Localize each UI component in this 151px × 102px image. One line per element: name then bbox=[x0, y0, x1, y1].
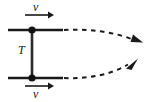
tension-label: T bbox=[18, 44, 25, 56]
top-pivot-point bbox=[28, 26, 35, 33]
velocity-label-bottom: v bbox=[33, 88, 38, 100]
velocity-label-top: v bbox=[33, 1, 38, 13]
bottom-pivot-point bbox=[28, 74, 35, 81]
top-dashed-trajectory-arrow bbox=[64, 30, 143, 43]
bottom-velocity-arrow bbox=[25, 83, 54, 90]
top-velocity-arrow bbox=[25, 12, 54, 19]
physics-diagram: v v T bbox=[0, 0, 151, 102]
bottom-dashed-trajectory-arrow bbox=[64, 59, 138, 79]
